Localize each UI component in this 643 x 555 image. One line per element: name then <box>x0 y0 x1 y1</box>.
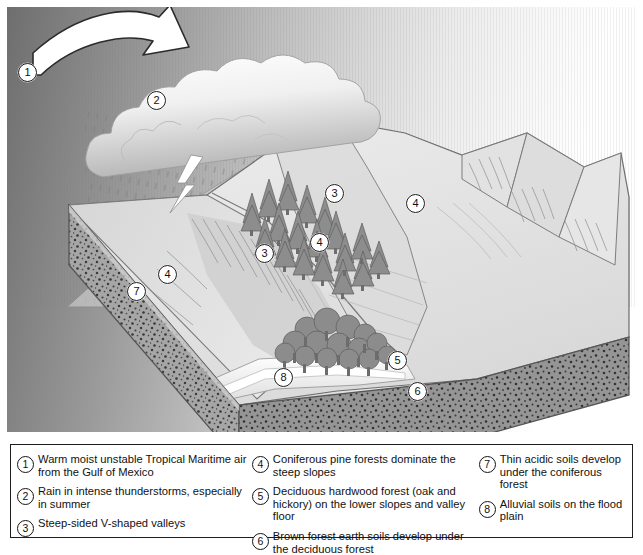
callout-6-brown-earth: 6 <box>408 382 427 401</box>
legend-text: Rain in intense thunderstorms, especiall… <box>38 484 250 510</box>
terrain-illustration <box>7 7 637 432</box>
legend-text: Thin acidic soils develop under the coni… <box>500 452 628 491</box>
legend-item: 8 Alluvial soils on the flood plain <box>479 497 628 523</box>
callout-4-conifer-mid: 4 <box>310 233 329 252</box>
legend-item: 4 Coniferous pine forests dominate the s… <box>252 452 477 478</box>
legend-text: Coniferous pine forests dominate the ste… <box>273 452 477 478</box>
legend-item: 3 Steep-sided V-shaped valleys <box>17 516 250 537</box>
callout-1-air-mass: 1 <box>18 63 37 82</box>
legend-column-1: 1 Warm moist unstable Tropical Maritime … <box>17 452 252 533</box>
illustration-frame: 1 2 3 3 4 4 4 7 5 8 6 <box>7 7 637 432</box>
callout-5-deciduous: 5 <box>388 351 407 370</box>
legend-number: 1 <box>17 456 34 473</box>
legend-item: 5 Deciduous hardwood forest (oak and hic… <box>252 484 477 523</box>
callout-3-valley-lower: 3 <box>255 244 274 263</box>
legend-number: 2 <box>17 488 34 505</box>
legend-number: 5 <box>252 488 269 505</box>
legend-text: Steep-sided V-shaped valleys <box>38 516 185 530</box>
legend-column-2: 4 Coniferous pine forests dominate the s… <box>252 452 479 533</box>
legend-item: 7 Thin acidic soils develop under the co… <box>479 452 628 491</box>
legend-item: 2 Rain in intense thunderstorms, especia… <box>17 484 250 510</box>
air-mass-arrow <box>33 7 189 75</box>
callout-3-valley-upper: 3 <box>325 184 344 203</box>
legend-number: 6 <box>252 533 269 550</box>
legend-box: 1 Warm moist unstable Tropical Maritime … <box>10 444 633 538</box>
legend-text: Deciduous hardwood forest (oak and hicko… <box>273 484 477 523</box>
callout-8-alluvial: 8 <box>274 368 293 387</box>
legend-text: Alluvial soils on the flood plain <box>500 497 628 523</box>
legend-number: 7 <box>479 456 496 473</box>
callout-7-thin-acidic-soil: 7 <box>127 282 146 301</box>
callout-2-rain: 2 <box>147 91 166 110</box>
legend-column-3: 7 Thin acidic soils develop under the co… <box>479 452 628 533</box>
legend-text: Brown forest earth soils develop under t… <box>273 529 477 555</box>
legend-number: 3 <box>17 520 34 537</box>
legend-item: 6 Brown forest earth soils develop under… <box>252 529 477 555</box>
callout-4-conifer-right: 4 <box>406 194 425 213</box>
legend-text: Warm moist unstable Tropical Maritime ai… <box>38 452 250 478</box>
legend-number: 4 <box>252 456 269 473</box>
legend-number: 8 <box>479 501 496 518</box>
callout-4-conifer-left: 4 <box>158 265 177 284</box>
legend-item: 1 Warm moist unstable Tropical Maritime … <box>17 452 250 478</box>
